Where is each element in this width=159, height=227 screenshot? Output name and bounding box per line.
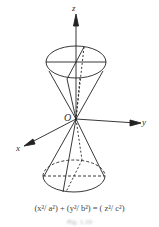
cone-diagram <box>0 0 159 227</box>
z-axis-label: z <box>72 3 76 13</box>
figure-caption: Fig. 1.10 <box>0 218 159 226</box>
x-axis-label: x <box>16 143 20 153</box>
origin-label: O <box>64 112 71 123</box>
y-axis-label: y <box>142 117 146 127</box>
cone-equation: (x²/ a²) + (y²/ b²) = ( z²/ c²) <box>0 203 159 213</box>
